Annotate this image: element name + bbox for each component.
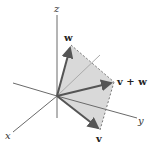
vector-addition-diagram: z x y w v v + w: [0, 0, 158, 150]
y-axis-label: y: [137, 115, 144, 126]
z-axis-label: z: [53, 3, 60, 14]
sum-label: v + w: [116, 76, 147, 87]
x-axis-back: [13, 83, 57, 96]
x-axis: [13, 96, 57, 132]
w-label: w: [63, 32, 73, 43]
v-label: v: [95, 133, 103, 144]
x-axis-label: x: [5, 130, 11, 141]
